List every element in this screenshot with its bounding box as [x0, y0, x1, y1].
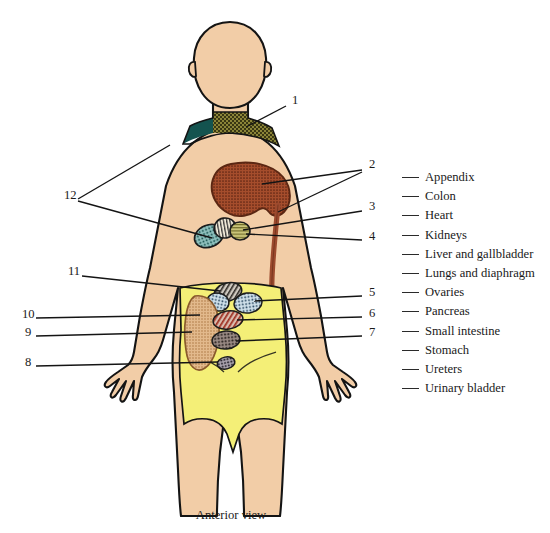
- number-label-10: 10: [22, 307, 35, 321]
- legend-answer-blank[interactable]: [402, 369, 419, 370]
- legend-answer-blank[interactable]: [402, 292, 419, 293]
- legend-item[interactable]: Colon: [402, 187, 548, 206]
- figure-caption: Anterior view: [0, 508, 550, 523]
- number-label-6: 6: [369, 306, 375, 320]
- legend-item[interactable]: Ovaries: [402, 283, 548, 302]
- legend-item[interactable]: Pancreas: [402, 302, 548, 321]
- legend-item-label: Ovaries: [425, 283, 464, 302]
- legend-item[interactable]: Liver and gallbladder: [402, 245, 548, 264]
- legend-item[interactable]: Urinary bladder: [402, 379, 548, 398]
- head-skin: [194, 22, 266, 108]
- number-label-11: 11: [68, 264, 80, 278]
- number-label-9: 9: [25, 325, 31, 339]
- legend-item-label: Heart: [425, 206, 453, 225]
- legend-item-label: Appendix: [425, 168, 475, 187]
- legend-answer-blank[interactable]: [402, 254, 419, 255]
- legend-item[interactable]: Heart: [402, 206, 548, 225]
- caption-text: Anterior view: [196, 508, 266, 522]
- legend-item-label: Ureters: [425, 360, 462, 379]
- leader-12a: [78, 145, 170, 199]
- leader-9: [36, 332, 192, 336]
- number-label-5: 5: [369, 285, 375, 299]
- legend-item-label: Kidneys: [425, 226, 467, 245]
- legend-answer-blank[interactable]: [402, 311, 419, 312]
- kidney-right-olive: [230, 222, 250, 240]
- legend-item-label: Liver and gallbladder: [425, 245, 533, 264]
- number-label-1: 1: [292, 93, 298, 107]
- legend-answer-blank[interactable]: [402, 196, 419, 197]
- legend-item[interactable]: Appendix: [402, 168, 548, 187]
- legend-item[interactable]: Kidneys: [402, 226, 548, 245]
- number-label-3: 3: [369, 199, 375, 213]
- legend-item-label: Small intestine: [425, 322, 500, 341]
- legend-answer-blank[interactable]: [402, 177, 419, 178]
- legend-item-label: Colon: [425, 187, 456, 206]
- legend-answer-blank[interactable]: [402, 388, 419, 389]
- legend-list: AppendixColonHeartKidneysLiver and gallb…: [402, 168, 548, 398]
- legend-answer-blank[interactable]: [402, 273, 419, 274]
- number-label-7: 7: [369, 325, 375, 339]
- legend-answer-blank[interactable]: [402, 350, 419, 351]
- number-label-12: 12: [64, 188, 77, 202]
- left-ear: [189, 62, 196, 77]
- right-ear: [264, 62, 271, 77]
- legend-answer-blank[interactable]: [402, 331, 419, 332]
- number-label-4: 4: [369, 229, 376, 243]
- legend-answer-blank[interactable]: [402, 215, 419, 216]
- legend-item-label: Stomach: [425, 341, 469, 360]
- number-label-2: 2: [369, 157, 375, 171]
- number-label-8: 8: [25, 355, 31, 369]
- legend-item[interactable]: Small intestine: [402, 322, 548, 341]
- legend-item-label: Pancreas: [425, 302, 470, 321]
- legend-item-label: Lungs and diaphragm: [425, 264, 535, 283]
- legend-item-label: Urinary bladder: [425, 379, 505, 398]
- legend-item[interactable]: Ureters: [402, 360, 548, 379]
- legend-item[interactable]: Lungs and diaphragm: [402, 264, 548, 283]
- legend-answer-blank[interactable]: [402, 235, 419, 236]
- anatomy-diagram-page: 123456789101112 AppendixColonHeartKidney…: [0, 0, 550, 533]
- legend-item[interactable]: Stomach: [402, 341, 548, 360]
